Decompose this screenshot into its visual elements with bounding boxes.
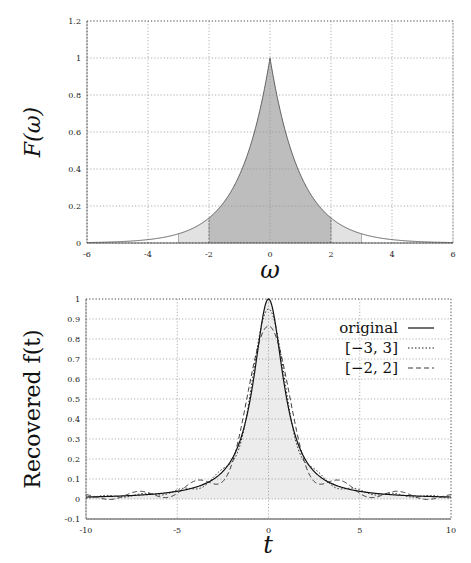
top-plot: 00.20.40.60.811.2-6-4-20246F(ω)ω [20, 17, 456, 284]
y-tick-label: -0.1 [65, 515, 80, 524]
y-tick-label: 0.6 [67, 375, 80, 384]
y-tick-label: 0.4 [68, 165, 81, 174]
x-tick-label: 10 [446, 526, 456, 535]
y-tick-label: 0.9 [67, 315, 80, 324]
x-tick-label: -5 [173, 526, 181, 535]
x-tick-label: -10 [80, 526, 93, 535]
y-tick-label: 0 [76, 239, 81, 248]
y-axis-label: Recovered f(t) [20, 329, 45, 488]
y-tick-label: 0.3 [67, 435, 80, 444]
y-axis-label: F(ω) [20, 107, 45, 158]
y-tick-label: 1.2 [68, 17, 81, 26]
figure: 00.20.40.60.811.2-6-4-20246F(ω)ω -0.100.… [0, 0, 471, 563]
y-tick-label: 0.2 [67, 455, 80, 464]
y-tick-label: 0.6 [68, 128, 81, 137]
y-tick-label: 1 [75, 295, 80, 304]
x-tick-label: -6 [83, 250, 91, 259]
legend-label: original [339, 319, 398, 337]
legend-label: [−2, 2] [345, 359, 398, 377]
y-tick-label: 0.8 [67, 335, 80, 344]
x-tick-label: -4 [144, 250, 152, 259]
x-tick-label: 5 [357, 526, 362, 535]
y-tick-label: 0.7 [67, 355, 80, 364]
y-tick-label: 1 [76, 54, 81, 63]
x-tick-label: 2 [328, 250, 333, 259]
x-tick-label: -2 [205, 250, 213, 259]
bottom-plot: -0.100.10.20.30.40.50.60.70.80.91-10-505… [20, 295, 456, 559]
y-tick-label: 0.2 [68, 202, 81, 211]
legend-label: [−3, 3] [345, 339, 398, 357]
y-tick-label: 0 [75, 495, 80, 504]
y-tick-label: 0.4 [67, 415, 80, 424]
x-axis-label: t [263, 531, 273, 559]
y-tick-label: 0.8 [68, 91, 81, 100]
x-axis-label: ω [260, 256, 280, 284]
x-tick-label: 4 [389, 250, 394, 259]
x-tick-label: 6 [450, 250, 455, 259]
y-tick-label: 0.1 [67, 475, 80, 484]
y-tick-label: 0.5 [67, 395, 80, 404]
